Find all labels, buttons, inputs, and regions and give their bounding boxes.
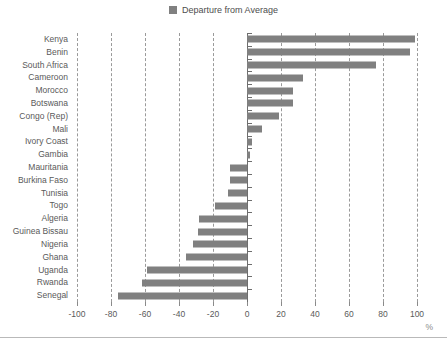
x-tick--40 (179, 302, 180, 306)
bar-rows (77, 33, 417, 302)
bar-row (77, 225, 417, 238)
x-tick-label-60: 60 (344, 309, 353, 319)
legend-swatch-icon (169, 6, 177, 14)
bar-botswana[interactable] (247, 100, 293, 107)
bar-row (77, 161, 417, 174)
x-tick-20 (281, 302, 282, 306)
bar-rwanda[interactable] (142, 279, 247, 286)
bar-algeria[interactable] (199, 215, 247, 222)
x-tick--20 (213, 302, 214, 306)
x-tick-40 (315, 302, 316, 306)
bar-gambia[interactable] (247, 151, 250, 158)
category-label-mali: Mali (0, 123, 72, 136)
bar-kenya[interactable] (247, 36, 415, 43)
bar-row (77, 71, 417, 84)
category-label-guinea-bissau: Guinea Bissau (0, 225, 72, 238)
bar-nigeria[interactable] (193, 241, 247, 248)
category-label-ivory-coast: Ivory Coast (0, 136, 72, 149)
x-tick-60 (349, 302, 350, 306)
x-tick--100 (77, 302, 78, 306)
category-label-algeria: Algeria (0, 212, 72, 225)
category-label-cameroon: Cameroon (0, 71, 72, 84)
x-axis: -100-80-60-40-20020406080100 (77, 302, 417, 307)
bar-morocco[interactable] (247, 87, 293, 94)
bar-tunisia[interactable] (228, 190, 247, 197)
x-tick-label-100: 100 (410, 309, 424, 319)
bar-row (77, 136, 417, 149)
bar-guinea-bissau[interactable] (198, 228, 247, 235)
bar-row (77, 187, 417, 200)
plot-area (77, 33, 417, 302)
bar-row (77, 289, 417, 302)
bar-row (77, 59, 417, 72)
x-tick--60 (145, 302, 146, 306)
category-label-kenya: Kenya (0, 33, 72, 46)
category-label-ghana: Ghana (0, 251, 72, 264)
x-tick-label-40: 40 (310, 309, 319, 319)
bar-row (77, 84, 417, 97)
x-tick-label-20: 20 (276, 309, 285, 319)
category-label-burkina-faso: Burkina Faso (0, 174, 72, 187)
bar-row (77, 148, 417, 161)
category-label-morocco: Morocco (0, 84, 72, 97)
chart-legend: Departure from Average (0, 3, 447, 17)
x-tick-label-80: 80 (378, 309, 387, 319)
bar-ghana[interactable] (186, 254, 247, 261)
bar-row (77, 238, 417, 251)
bar-row (77, 33, 417, 46)
bar-row (77, 251, 417, 264)
category-label-nigeria: Nigeria (0, 238, 72, 251)
gridline-100 (417, 33, 418, 302)
bar-mali[interactable] (247, 126, 262, 133)
x-tick-label-0: 0 (245, 309, 250, 319)
bar-senegal[interactable] (118, 292, 247, 299)
bar-row (77, 123, 417, 136)
bar-benin[interactable] (247, 49, 410, 56)
bar-cameroon[interactable] (247, 74, 303, 81)
bar-row (77, 110, 417, 123)
bar-mauritania[interactable] (230, 164, 247, 171)
chart-container: Departure from Average KenyaBeninSouth A… (0, 0, 447, 343)
x-tick-100 (417, 302, 418, 306)
x-tick-0 (247, 302, 248, 306)
category-label-congo-rep: Congo (Rep) (0, 110, 72, 123)
category-label-mauritania: Mauritania (0, 161, 72, 174)
category-label-tunisia: Tunisia (0, 187, 72, 200)
x-tick-label--80: -80 (105, 309, 117, 319)
x-tick-label--100: -100 (68, 309, 85, 319)
bar-congo-rep[interactable] (247, 113, 279, 120)
bar-row (77, 264, 417, 277)
bar-row (77, 212, 417, 225)
category-label-south-africa: South Africa (0, 59, 72, 72)
x-tick-label--60: -60 (139, 309, 151, 319)
category-label-senegal: Senegal (0, 289, 72, 302)
x-tick-label--40: -40 (173, 309, 185, 319)
bar-row (77, 46, 417, 59)
bar-ivory-coast[interactable] (247, 138, 252, 145)
bar-row (77, 97, 417, 110)
category-label-uganda: Uganda (0, 264, 72, 277)
x-tick--80 (111, 302, 112, 306)
x-tick-label--20: -20 (207, 309, 219, 319)
bar-burkina-faso[interactable] (230, 177, 247, 184)
bar-south-africa[interactable] (247, 62, 376, 69)
bar-row (77, 174, 417, 187)
bar-uganda[interactable] (147, 267, 247, 274)
category-label-rwanda: Rwanda (0, 276, 72, 289)
category-label-gambia: Gambia (0, 148, 72, 161)
bar-row (77, 200, 417, 213)
bar-row (77, 276, 417, 289)
category-label-togo: Togo (0, 200, 72, 213)
axis-unit-label: % (425, 322, 433, 332)
category-label-botswana: Botswana (0, 97, 72, 110)
category-axis-labels: KenyaBeninSouth AfricaCameroonMoroccoBot… (0, 33, 72, 302)
legend-label: Departure from Average (182, 5, 278, 15)
x-tick-80 (383, 302, 384, 306)
bar-togo[interactable] (215, 202, 247, 209)
bottom-divider (0, 337, 447, 338)
category-label-benin: Benin (0, 46, 72, 59)
